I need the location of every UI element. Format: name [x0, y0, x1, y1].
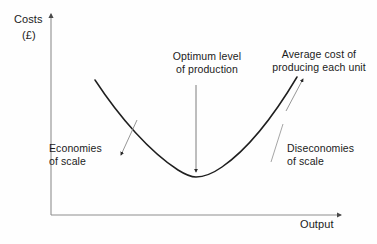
annotation-economies-of-scale: Economies of scale [49, 142, 129, 167]
diseconomies-pointer-line [271, 124, 283, 162]
average-cost-pointer-line [286, 79, 303, 111]
annotation-optimum-level: Optimum level of production [159, 50, 255, 75]
annotation-average-cost: Average cost of producing each unit [262, 48, 376, 73]
x-axis-label: Output [300, 218, 334, 231]
annotation-diseconomies-of-scale: Diseconomies of scale [287, 142, 371, 167]
cost-curve-chart: Costs (£) Output Optimum level of produc… [0, 0, 377, 244]
y-axis-unit-label: (£) [22, 29, 36, 42]
chart-canvas [0, 0, 377, 244]
y-axis-label: Costs [14, 13, 43, 26]
